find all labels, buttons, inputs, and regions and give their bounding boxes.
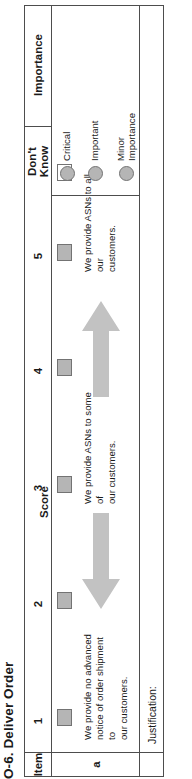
column-header-score-5: 5	[25, 236, 51, 276]
page-title: O-6. Deliver Order	[1, 662, 16, 779]
justification-item-spacer	[140, 752, 163, 776]
table-row: a We provide no advanced notice of order…	[51, 6, 139, 776]
assessment-form-sheet: O-6. Deliver Order Item Score 1 2 3 4 5 …	[0, 0, 192, 779]
assessment-table: Item Score 1 2 3 4 5 Don't Know Importan…	[24, 5, 164, 777]
importance-option-label: Critical	[62, 132, 73, 161]
score-anchor-text-1: We provide no advanced notice of order s…	[82, 628, 130, 740]
radio-circle-icon	[119, 166, 134, 181]
score-checkbox-5[interactable]	[57, 244, 72, 261]
importance-option-label: Minor Importance	[116, 113, 137, 161]
radio-circle-icon	[60, 166, 75, 181]
column-header-score-4: 4	[25, 351, 51, 391]
importance-option-label: Important	[90, 120, 101, 161]
rotated-form-canvas: O-6. Deliver Order Item Score 1 2 3 4 5 …	[0, 0, 192, 779]
column-header-importance: Importance	[25, 4, 51, 126]
score-checkbox-1[interactable]	[57, 709, 72, 726]
importance-option-critical[interactable]: Critical	[60, 132, 75, 181]
answer-area: We provide no advanced notice of order s…	[52, 6, 139, 752]
arrow-left-icon	[80, 513, 122, 609]
importance-legend: Critical Important Minor Importance	[52, 3, 139, 196]
radio-circle-icon	[88, 166, 103, 181]
table-header-row: Item Score 1 2 3 4 5 Don't Know Importan…	[25, 6, 51, 776]
column-header-score-2: 2	[25, 584, 51, 624]
arrow-right-icon	[80, 301, 122, 397]
score-anchor-text-3: We provide ASNs to some of our customers…	[82, 386, 118, 504]
justification-row: Justification:	[139, 6, 163, 776]
column-header-score-1: 1	[25, 701, 51, 741]
importance-option-minor-importance[interactable]: Minor Importance	[116, 113, 137, 181]
importance-option-important[interactable]: Important	[88, 120, 103, 181]
justification-label: Justification:	[146, 686, 158, 744]
score-checkbox-2[interactable]	[57, 592, 72, 609]
item-label: a	[52, 752, 139, 776]
score-checkbox-4[interactable]	[57, 359, 72, 376]
score-checkbox-3[interactable]	[57, 476, 72, 493]
column-header-dont-know: Don't Know	[25, 126, 51, 196]
column-header-score-3: 3	[25, 468, 51, 508]
column-header-item: Item	[25, 752, 51, 776]
